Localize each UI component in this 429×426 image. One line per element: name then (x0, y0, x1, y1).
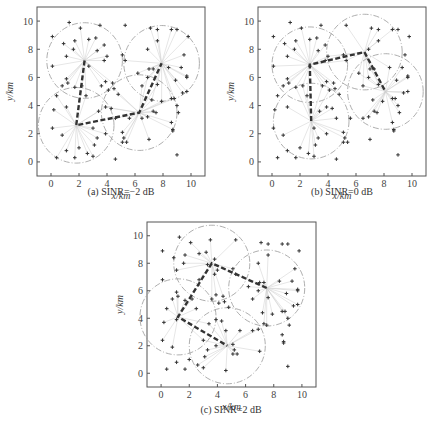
y-tick-label: 6 (28, 72, 33, 83)
y-tick-label: 10 (133, 230, 143, 241)
y-tick-label: 8 (28, 44, 33, 55)
y-tick-label: 2 (28, 128, 33, 139)
x-tick-label: 2 (187, 389, 192, 400)
x-tick-label: 10 (407, 178, 417, 189)
x-tick-label: 6 (243, 389, 248, 400)
y-tick-label: 0 (138, 368, 143, 379)
figure-caption-c: (c) SINR=2 dB (171, 404, 291, 415)
y-axis-label: y/km (114, 295, 125, 315)
y-axis-label: y/km (225, 82, 236, 102)
y-tick-label: 10 (244, 16, 254, 27)
y-tick-label: 8 (138, 258, 143, 269)
plot-frame (147, 222, 316, 387)
x-tick-label: 8 (271, 389, 276, 400)
y-tick-label: 4 (138, 313, 143, 324)
y-tick-label: 0 (249, 156, 254, 167)
scatter-plot-c: 02468100246810x/kmy/km (111, 220, 319, 413)
y-tick-label: 10 (23, 16, 33, 27)
x-tick-label: 0 (270, 178, 275, 189)
x-tick-label: 0 (159, 389, 164, 400)
x-tick-label: 0 (49, 178, 54, 189)
scatter-plot-a: 02468100246810x/kmy/km (1, 5, 208, 202)
x-tick-label: 4 (215, 389, 220, 400)
y-tick-label: 2 (249, 128, 254, 139)
y-tick-label: 4 (249, 100, 254, 111)
plot-frame (37, 7, 205, 176)
y-tick-label: 6 (249, 72, 254, 83)
y-axis-label: y/km (4, 82, 15, 102)
y-tick-label: 4 (28, 100, 33, 111)
figure-caption-b: (b) SINR=0 dB (282, 186, 402, 197)
x-tick-label: 10 (297, 389, 307, 400)
y-tick-label: 8 (249, 44, 254, 55)
y-tick-label: 2 (138, 340, 143, 351)
y-tick-label: 6 (138, 285, 143, 296)
x-tick-label: 10 (186, 178, 196, 189)
scatter-plot-b: 02468100246810x/kmy/km (222, 5, 429, 202)
figure-caption-a: (a) SINR=−2 dB (61, 186, 181, 197)
y-tick-label: 0 (28, 156, 33, 167)
